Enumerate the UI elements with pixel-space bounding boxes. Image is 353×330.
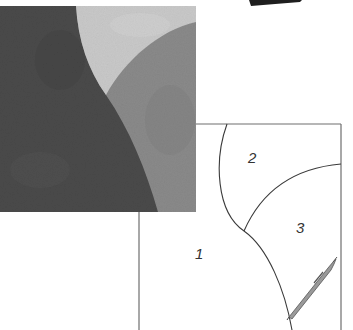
piece-label-1: 1 bbox=[195, 246, 203, 261]
fabric-photo bbox=[0, 6, 196, 212]
seam-curve-2 bbox=[244, 164, 341, 231]
piece-label-2: 2 bbox=[248, 150, 256, 165]
quilt-illustration: 1 2 3 bbox=[0, 0, 353, 330]
piece-label-3: 3 bbox=[296, 220, 304, 235]
pen-icon bbox=[287, 257, 337, 320]
illustration-canvas bbox=[0, 0, 353, 330]
dark-wedge-shape bbox=[249, 0, 302, 6]
